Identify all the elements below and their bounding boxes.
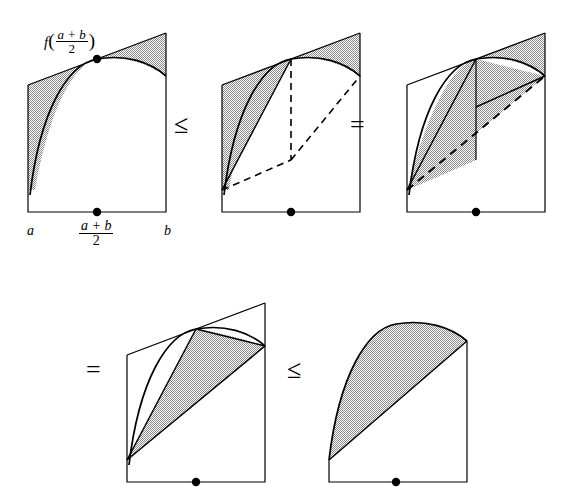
panel-5-midpoint-dot <box>392 478 400 486</box>
label-close-paren: ) <box>89 30 95 51</box>
label-f-of-midpoint: f( a + b 2 ) <box>44 28 95 56</box>
panel-1-shade-left <box>28 59 97 190</box>
label-axis-midpoint-numerator: a + b <box>79 219 113 234</box>
panel-4-midpoint-dot <box>192 478 200 486</box>
relation-op-less-equal-2: ≤ <box>287 357 301 383</box>
panel-2 <box>222 33 360 216</box>
label-axis-b: b <box>164 224 171 238</box>
panel-2-midpoint-dot <box>287 208 295 216</box>
label-axis-midpoint: a + b 2 <box>78 219 114 249</box>
panel-1-tangent-dot <box>93 55 101 63</box>
label-axis-midpoint-fraction: a + b 2 <box>79 219 113 249</box>
panel-1 <box>28 33 166 216</box>
label-midpoint-fraction: a + b 2 <box>56 28 88 56</box>
label-axis-midpoint-denominator: 2 <box>79 234 113 248</box>
panel-3-midpoint-dot <box>472 208 480 216</box>
panel-4 <box>127 303 265 486</box>
relation-op-equals-2: = <box>86 357 101 383</box>
label-midpoint-denominator: 2 <box>56 42 88 55</box>
figure-root: f( a + b 2 ) a a + b 2 b ≤ = = ≤ <box>0 0 569 489</box>
relation-op-less-equal-1: ≤ <box>174 112 188 138</box>
panel-1-midpoint-dot <box>93 208 101 216</box>
panel-4-shade <box>127 329 265 460</box>
label-midpoint-numerator: a + b <box>56 28 88 42</box>
panel-5-shade <box>329 323 467 460</box>
panel-3 <box>407 33 545 216</box>
label-open-paren: ( <box>48 30 54 51</box>
label-axis-a: a <box>27 224 34 238</box>
relation-op-equals-1: = <box>350 112 365 138</box>
panel-5 <box>329 323 467 487</box>
